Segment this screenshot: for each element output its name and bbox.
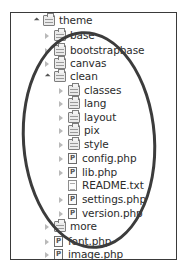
collapse-arrow-icon[interactable] xyxy=(42,31,51,40)
tree-item-label: bootstrapbase xyxy=(70,44,144,57)
tree-item-label: font.php xyxy=(68,235,111,248)
tree-item-label: base xyxy=(70,29,95,42)
package-folder-icon xyxy=(54,45,66,56)
tree-item-label: config.php xyxy=(82,152,136,165)
package-folder-icon xyxy=(68,98,80,109)
tree-item-version-php[interactable]: P version.php xyxy=(56,207,143,220)
tree-item-style[interactable]: style xyxy=(56,138,109,151)
package-folder-icon xyxy=(68,112,80,123)
php-file-icon: P xyxy=(68,153,77,164)
package-folder-icon xyxy=(54,58,66,69)
text-file-icon xyxy=(68,180,77,191)
tree-item-settings-php[interactable]: P settings.php xyxy=(56,193,146,206)
package-folder-icon xyxy=(68,85,80,96)
collapse-arrow-icon[interactable] xyxy=(56,209,65,218)
package-folder-icon xyxy=(54,30,66,41)
collapse-arrow-icon[interactable] xyxy=(56,113,65,122)
expand-arrow-icon[interactable] xyxy=(31,16,40,25)
tree-item-lib-php[interactable]: P lib.php xyxy=(56,166,117,179)
tree-item-lang[interactable]: lang xyxy=(56,97,106,110)
tree-item-label: layout xyxy=(84,111,116,124)
tree-item-label: theme xyxy=(59,14,92,27)
tree-item-label: clean xyxy=(70,70,98,83)
tree-item-label: README.txt xyxy=(82,179,144,192)
tree-item-label: style xyxy=(84,138,109,151)
tree-item-label: version.php xyxy=(82,207,143,220)
collapse-arrow-icon[interactable] xyxy=(42,222,51,231)
tree-item-font-php[interactable]: P font.php xyxy=(42,235,111,248)
collapse-arrow-icon[interactable] xyxy=(56,195,65,204)
tree-item-label: more xyxy=(70,220,97,233)
collapse-arrow-icon[interactable] xyxy=(56,168,65,177)
tree-item-pix[interactable]: pix xyxy=(56,124,100,137)
tree-item-clean[interactable]: clean xyxy=(42,70,98,83)
tree-item-label: lang xyxy=(84,97,106,110)
tree-item-image-php[interactable]: P image.php xyxy=(42,248,123,260)
tree-item-layout[interactable]: layout xyxy=(56,111,116,124)
collapse-arrow-icon[interactable] xyxy=(56,154,65,163)
tree-item-theme[interactable]: theme xyxy=(31,14,92,27)
project-explorer-panel: theme base bootstrapbase canvas clean cl… xyxy=(10,12,177,260)
package-folder-icon xyxy=(54,221,66,232)
collapse-arrow-icon[interactable] xyxy=(42,46,51,55)
tree-item-readme-txt[interactable]: README.txt xyxy=(56,179,144,192)
tree-item-label: classes xyxy=(84,84,121,97)
package-folder-icon xyxy=(68,139,80,150)
tree-item-label: canvas xyxy=(70,57,106,70)
collapse-arrow-icon[interactable] xyxy=(56,140,65,149)
tree-item-classes[interactable]: classes xyxy=(56,84,121,97)
collapse-arrow-icon[interactable] xyxy=(56,99,65,108)
package-folder-icon xyxy=(43,15,55,26)
php-file-icon: P xyxy=(68,167,77,178)
collapse-arrow-icon[interactable] xyxy=(42,237,51,246)
php-file-icon: P xyxy=(68,208,77,219)
package-folder-icon xyxy=(54,71,66,82)
tree-item-more[interactable]: more xyxy=(42,220,97,233)
no-arrow-spacer xyxy=(56,181,65,190)
tree-item-canvas[interactable]: canvas xyxy=(42,57,106,70)
expand-arrow-icon[interactable] xyxy=(42,72,51,81)
tree-item-label: lib.php xyxy=(82,166,117,179)
collapse-arrow-icon[interactable] xyxy=(42,59,51,68)
tree-item-label: pix xyxy=(84,124,100,137)
tree-item-label: image.php xyxy=(68,248,123,260)
package-folder-icon xyxy=(68,125,80,136)
tree-item-config-php[interactable]: P config.php xyxy=(56,152,136,165)
php-file-icon: P xyxy=(54,236,63,247)
collapse-arrow-icon[interactable] xyxy=(42,250,51,259)
collapse-arrow-icon[interactable] xyxy=(56,126,65,135)
tree-item-base[interactable]: base xyxy=(42,29,95,42)
tree-item-label: settings.php xyxy=(82,193,146,206)
php-file-icon: P xyxy=(54,249,63,260)
php-file-icon: P xyxy=(68,194,77,205)
collapse-arrow-icon[interactable] xyxy=(56,86,65,95)
